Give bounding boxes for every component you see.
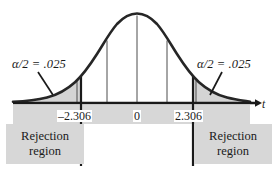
tick-label-band: [13, 105, 250, 124]
x-tick-label-zero: 0: [133, 110, 141, 122]
right-alpha-pointer-line: [210, 72, 222, 95]
right-rejection-region-line2: region: [217, 144, 249, 159]
axis-arrowhead-icon: [255, 99, 262, 107]
right-tail-shading: [189, 70, 250, 103]
x-axis-variable-label: t: [262, 99, 265, 111]
left-rejection-region-box: Rejection region: [6, 124, 84, 164]
right-tail-alpha-annotation: α/2 = .025: [197, 58, 251, 71]
x-tick-label-positive-critical: 2.306: [174, 110, 203, 122]
left-rejection-region-line2: region: [29, 144, 61, 159]
right-rejection-region-box: Rejection region: [194, 124, 272, 164]
left-alpha-pointer-line: [38, 72, 53, 95]
left-tail-alpha-annotation: α/2 = .025: [12, 58, 66, 71]
left-rejection-region-line1: Rejection: [21, 129, 69, 144]
x-tick-label-negative-critical: –2.306: [57, 110, 92, 122]
right-rejection-region-line1: Rejection: [209, 129, 257, 144]
t-distribution-rejection-region-figure: α/2 = .025 α/2 = .025 –2.306 0 2.306 t R…: [0, 0, 278, 172]
